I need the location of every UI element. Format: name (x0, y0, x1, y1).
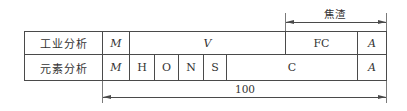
row-label-ultimate-analysis: 元素分析 (25, 55, 102, 80)
cell-hydrogen: H (130, 55, 154, 80)
cell-nitrogen: N (179, 55, 203, 80)
arrow-left-icon (103, 95, 111, 99)
arrow-right-icon (378, 95, 386, 99)
bottom-dimension-line (103, 97, 386, 98)
table-bottom-border (24, 80, 387, 81)
cell-sulfur: S (204, 55, 226, 80)
top-extension-line-right (386, 13, 387, 31)
bottom-extension-line-left (102, 81, 103, 103)
cell-moisture: M (103, 55, 129, 80)
total-100-label: 100 (225, 83, 265, 95)
cell-volatile: V (130, 32, 285, 54)
cell-fixed-carbon: FC (286, 32, 357, 54)
top-dimension-line (286, 22, 386, 23)
coke-residue-label: 焦渣 (305, 6, 365, 21)
arrow-right-icon (378, 20, 386, 24)
bottom-extension-line-right (386, 81, 387, 103)
table-right-border (386, 31, 387, 81)
cell-ash: A (358, 55, 386, 80)
cell-moisture: M (103, 32, 129, 54)
cell-oxygen: O (155, 55, 178, 80)
row-label-proximate-analysis: 工业分析 (25, 32, 102, 54)
cell-carbon: C (227, 55, 357, 80)
cell-ash: A (358, 32, 386, 54)
arrow-left-icon (286, 20, 294, 24)
